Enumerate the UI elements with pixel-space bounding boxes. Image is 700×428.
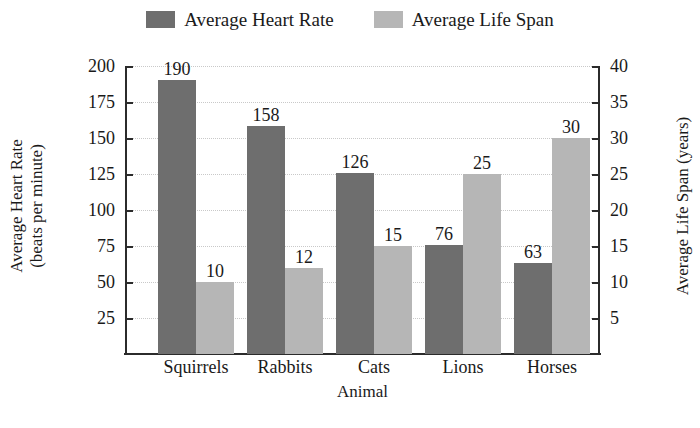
y-axis-right-tick-label: 10 — [610, 273, 628, 291]
legend-entry-life-span: Average Life Span — [374, 10, 554, 29]
y-axis-right-tick-label: 20 — [610, 201, 628, 219]
gridline — [127, 66, 598, 68]
y-axis-right-tick-label: 30 — [610, 129, 628, 147]
plot-area: 200175150125100755025 403530252015105 19… — [125, 66, 600, 355]
y-axis-right-tick — [592, 174, 600, 176]
y-axis-right-tick — [592, 66, 600, 68]
y-axis-left-tick — [125, 282, 133, 284]
y-axis-left-tick-label: 25 — [97, 309, 115, 327]
y-axis-left-tick — [125, 174, 133, 176]
legend-entry-heart-rate: Average Heart Rate — [146, 10, 333, 29]
x-axis-label-horses: Horses — [527, 357, 577, 377]
y-axis-right-tick-label: 5 — [610, 309, 619, 327]
bar-value-label: 12 — [295, 247, 313, 267]
legend-label-life-span: Average Life Span — [412, 10, 554, 29]
chart-legend: Average Heart Rate Average Life Span — [0, 10, 700, 29]
y-axis-left-tick-label: 50 — [97, 273, 115, 291]
y-axis-left-tick — [125, 138, 133, 140]
x-axis-label-rabbits: Rabbits — [257, 357, 312, 377]
bar-heart-rate-rabbits: 158 — [247, 126, 285, 354]
legend-swatch-life-span — [374, 11, 403, 28]
bar-value-label: 190 — [164, 59, 191, 79]
y-axis-right-tick — [592, 282, 600, 284]
legend-swatch-heart-rate — [146, 11, 175, 28]
x-axis-label-squirrels: Squirrels — [164, 357, 229, 377]
bar-life-span-rabbits: 12 — [285, 268, 323, 354]
x-axis-label-cats: Cats — [358, 357, 390, 377]
x-axis-title: Animal — [125, 382, 600, 402]
y-axis-right-tick-label: 35 — [610, 93, 628, 111]
y-axis-right-tick — [592, 318, 600, 320]
bar-value-label: 63 — [524, 242, 542, 262]
y-axis-right-title: Average Life Span (years) — [668, 60, 698, 352]
bar-life-span-cats: 15 — [374, 246, 412, 354]
y-axis-left-tick-label: 75 — [97, 237, 115, 255]
y-axis-left-tick-label: 125 — [88, 165, 115, 183]
chart-container: Average Heart Rate Average Life Span Ave… — [0, 0, 700, 428]
y-axis-left-tick — [125, 318, 133, 320]
x-axis-label-lions: Lions — [442, 357, 483, 377]
bar-life-span-horses: 30 — [552, 138, 590, 354]
bar-value-label: 25 — [473, 153, 491, 173]
y-axis-left-tick — [125, 210, 133, 212]
bar-value-label: 76 — [435, 224, 453, 244]
y-axis-left-tick — [125, 66, 133, 68]
y-axis-left-tick-label: 175 — [88, 93, 115, 111]
legend-label-heart-rate: Average Heart Rate — [184, 10, 333, 29]
bar-value-label: 126 — [342, 152, 369, 172]
y-axis-left-title-line1: Average Heart Rate — [7, 139, 27, 273]
y-axis-right-tick — [592, 246, 600, 248]
bar-value-label: 10 — [206, 261, 224, 281]
gridline — [127, 138, 598, 140]
y-axis-left-tick-label: 200 — [88, 57, 115, 75]
y-axis-left-tick-label: 100 — [88, 201, 115, 219]
y-axis-left-tick-label: 150 — [88, 129, 115, 147]
y-axis-left-title: Average Heart Rate (beats per minute) — [6, 60, 48, 352]
y-axis-right-tick — [592, 210, 600, 212]
bar-life-span-squirrels: 10 — [196, 282, 234, 354]
y-axis-left-title-line2: (beats per minute) — [27, 139, 47, 273]
bar-value-label: 158 — [253, 105, 280, 125]
y-axis-left-tick — [125, 102, 133, 104]
y-axis-right-tick-label: 25 — [610, 165, 628, 183]
y-axis-right-tick — [592, 138, 600, 140]
bar-heart-rate-squirrels: 190 — [158, 80, 196, 354]
y-axis-right-tick-label: 15 — [610, 237, 628, 255]
bar-heart-rate-cats: 126 — [336, 173, 374, 354]
bar-heart-rate-horses: 63 — [514, 263, 552, 354]
bar-life-span-lions: 25 — [463, 174, 501, 354]
bar-value-label: 30 — [562, 117, 580, 137]
y-axis-right-tick-label: 40 — [610, 57, 628, 75]
y-axis-left-tick — [125, 246, 133, 248]
bar-value-label: 15 — [384, 225, 402, 245]
bar-heart-rate-lions: 76 — [425, 245, 463, 354]
gridline — [127, 102, 598, 104]
y-axis-right-title-text: Average Life Span (years) — [673, 117, 693, 296]
y-axis-right-tick — [592, 102, 600, 104]
